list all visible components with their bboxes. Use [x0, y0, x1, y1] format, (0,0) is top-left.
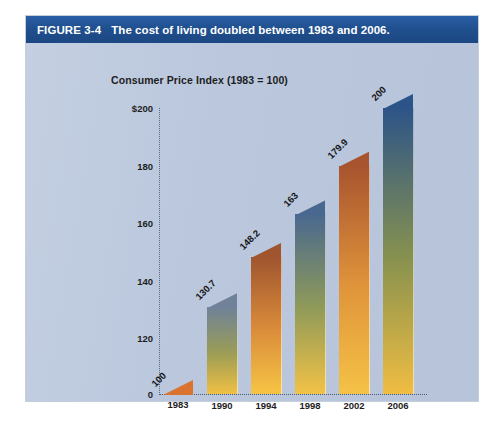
bar	[383, 108, 414, 394]
bar	[207, 307, 238, 394]
bar-top-bevel	[339, 152, 369, 167]
bar-series: 1001983130.71990148.219941631998179.9200…	[163, 102, 427, 394]
bar-value-label: 200	[369, 84, 388, 103]
bar-top-bevel	[295, 200, 325, 215]
figure-panel: FIGURE 3-4 The cost of living doubled be…	[26, 16, 478, 401]
bar-group: 2002006	[383, 108, 413, 394]
y-axis-tick-label: 120	[137, 333, 159, 344]
bar-value-label: 179.9	[325, 136, 350, 161]
bar-value-label: 163	[281, 190, 300, 209]
x-axis-tick-label: 2006	[381, 400, 415, 411]
y-axis-tick-label: 140	[137, 275, 159, 286]
figure-root: FIGURE 3-4 The cost of living doubled be…	[0, 0, 503, 426]
bar-value-label: 100	[149, 370, 168, 389]
bar-top-bevel	[383, 94, 413, 109]
bar	[251, 257, 282, 394]
bar-group: 148.21994	[251, 257, 281, 394]
y-axis-tick-label: $200	[132, 103, 159, 114]
bar-value-label: 130.7	[193, 278, 218, 303]
figure-title-banner: FIGURE 3-4 The cost of living doubled be…	[26, 16, 478, 43]
figure-number: FIGURE 3-4	[37, 24, 101, 36]
x-axis-tick-label: 1994	[249, 400, 283, 411]
bar-top-bevel	[251, 243, 281, 258]
y-axis-tick-label: 0	[148, 389, 159, 400]
x-axis-tick-label: 1998	[293, 400, 327, 411]
bar-group: 130.71990	[207, 307, 237, 394]
figure-caption: The cost of living doubled between 1983 …	[111, 24, 390, 36]
bar-value-label: 148.2	[237, 227, 262, 252]
bar	[339, 166, 370, 394]
bar	[295, 214, 326, 394]
x-axis-tick-label: 1990	[205, 400, 239, 411]
bar-group: 179.92002	[339, 166, 369, 394]
bar-top-bevel	[207, 293, 237, 308]
y-axis-line	[159, 108, 160, 395]
bar-top-bevel	[163, 380, 193, 395]
y-axis-tick-label: 180	[137, 160, 159, 171]
bar-group: 1631998	[295, 214, 325, 394]
x-axis-tick-label: 2002	[337, 400, 371, 411]
x-axis-tick-label: 1983	[161, 399, 195, 410]
plot-area: $2001801601401200 1001983130.71990148.21…	[130, 102, 430, 398]
y-axis-tick-label: 160	[137, 218, 159, 229]
x-axis-line	[159, 394, 427, 395]
chart-title: Consumer Price Index (1983 = 100)	[111, 74, 288, 86]
